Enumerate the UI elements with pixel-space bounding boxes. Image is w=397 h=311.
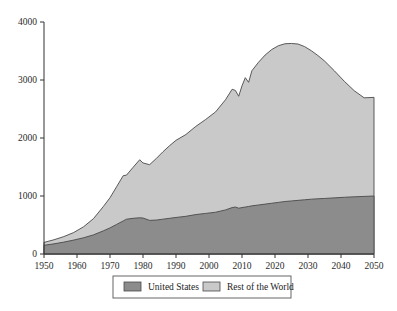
legend-label-united-states: United States (148, 282, 199, 292)
y-tick-label: 3000 (18, 75, 37, 85)
x-tick-label: 1980 (134, 261, 153, 271)
x-tick-label: 2030 (299, 261, 318, 271)
x-tick-label: 2010 (233, 261, 252, 271)
legend-swatch-rest-of-the-world (203, 282, 220, 291)
legend-label-rest-of-the-world: Rest of the World (227, 282, 294, 292)
y-tick-label: 2000 (18, 133, 37, 143)
legend-swatch-united-states (124, 282, 141, 291)
y-tick-label: 0 (32, 249, 37, 259)
y-tick-label: 4000 (18, 17, 37, 27)
x-tick-label: 1950 (35, 261, 54, 271)
y-tick-label: 1000 (18, 191, 37, 201)
legend: United States Rest of the World (113, 276, 294, 298)
x-tick-label: 2000 (200, 261, 219, 271)
x-tick-label: 1960 (68, 261, 87, 271)
chart-canvas: 01000200030004000 1950196019701980199020… (0, 0, 397, 311)
x-tick-label: 2050 (365, 261, 384, 271)
x-tick-label: 2040 (332, 261, 351, 271)
stacked-area-chart: 01000200030004000 1950196019701980199020… (0, 0, 397, 311)
x-tick-label: 2020 (266, 261, 285, 271)
x-tick-label: 1970 (101, 261, 120, 271)
x-tick-label: 1990 (167, 261, 186, 271)
